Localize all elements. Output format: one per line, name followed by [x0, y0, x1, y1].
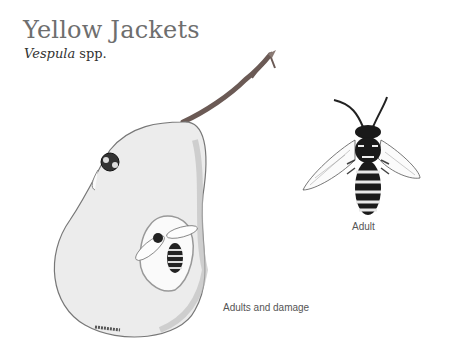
- adult-wasp-icon: [303, 97, 420, 215]
- pear-illustration: [54, 50, 276, 337]
- caption-adults-and-damage: Adults and damage: [223, 302, 309, 313]
- caption-adult: Adult: [352, 221, 375, 232]
